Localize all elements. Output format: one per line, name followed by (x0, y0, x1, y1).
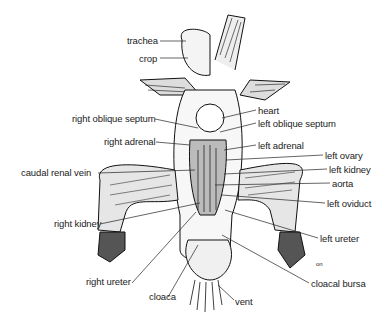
label-left-oviduct: left oviduct (327, 198, 371, 209)
label-cloaca: cloaca (149, 291, 176, 302)
label-left-ovary: left ovary (325, 150, 363, 161)
label-vent: vent (235, 296, 253, 307)
label-heart: heart (258, 105, 279, 116)
label-crop: crop (139, 53, 157, 64)
label-left-kidney: left kidney (329, 164, 371, 175)
label-right-ureter: right ureter (86, 276, 131, 287)
label-caudal-renal-vein: caudal renal vein (21, 167, 91, 178)
label-left-ureter: left ureter (320, 233, 359, 244)
label-aorta: aorta (332, 178, 353, 189)
label-left-adrenal: left adrenal (258, 140, 304, 151)
label-right-adrenal: right adrenal (104, 136, 156, 147)
label-trachea: trachea (127, 35, 158, 46)
label-right-kidney: right kidney (54, 218, 101, 229)
label-right-oblique-septum: right oblique septum (72, 113, 156, 124)
anatomy-diagram: trachea crop right oblique septum right … (0, 0, 388, 328)
label-cloacal-bursa: cloacal bursa (311, 278, 366, 289)
label-left-oblique-septum: left oblique septum (258, 118, 336, 129)
annotation-on: on (316, 259, 322, 270)
